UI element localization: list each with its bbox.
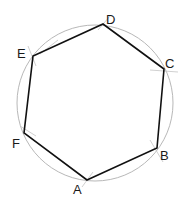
vertex-label-b: B bbox=[160, 148, 169, 163]
hexagon-abcdef bbox=[24, 24, 164, 180]
vertex-label-a: A bbox=[73, 182, 82, 197]
diagram-svg: A B C D E F bbox=[0, 0, 183, 202]
circumscribed-circle bbox=[17, 25, 173, 181]
hexagon-diagram: A B C D E F bbox=[0, 0, 183, 202]
vertex-label-c: C bbox=[165, 56, 174, 71]
vertex-label-d: D bbox=[106, 12, 115, 27]
vertex-label-e: E bbox=[17, 46, 26, 61]
vertex-label-f: F bbox=[12, 136, 20, 151]
